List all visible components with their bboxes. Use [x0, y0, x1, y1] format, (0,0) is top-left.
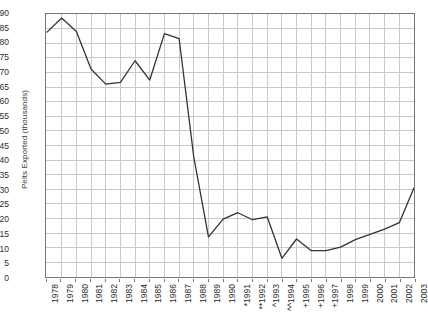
x-tick-label: 1985	[153, 282, 163, 322]
plot-area	[45, 13, 415, 278]
x-tick-label: ^1993	[271, 282, 281, 322]
y-tick-label: 85	[0, 23, 9, 33]
y-tick-label: 75	[0, 52, 9, 62]
y-tick-label: 0	[0, 273, 9, 283]
x-tick-label: 2000	[375, 282, 385, 322]
x-tick-label: 1980	[80, 282, 90, 322]
y-tick-label: 90	[0, 8, 9, 18]
x-tick-label: 1982	[109, 282, 119, 322]
x-tick-label: 1981	[94, 282, 104, 322]
x-tick-label: +1997	[330, 282, 340, 322]
y-tick-label: 25	[0, 199, 9, 209]
y-tick-label: 35	[0, 170, 9, 180]
x-tick-label: +1996	[316, 282, 326, 322]
series-line	[46, 14, 414, 277]
x-tick-label: 2002	[404, 282, 414, 322]
y-tick-label: 40	[0, 155, 9, 165]
y-tick-label: 60	[0, 96, 9, 106]
y-tick-label: 5	[0, 258, 9, 268]
x-tick-label: 1987	[183, 282, 193, 322]
x-tick-label: 2001	[389, 282, 399, 322]
line-chart: Pelts Exported (thousands) 0510152025303…	[0, 0, 428, 323]
x-tick-label: 2003	[419, 282, 428, 322]
x-tick-label: 1986	[168, 282, 178, 322]
y-tick-label: 20	[0, 214, 9, 224]
x-tick-label: 1978	[50, 282, 60, 322]
x-tick-label: 1999	[360, 282, 370, 322]
x-tick-label: 1998	[345, 282, 355, 322]
y-tick-label: 80	[0, 37, 9, 47]
y-tick-label: 10	[0, 244, 9, 254]
x-tick-label: ^^1994	[286, 282, 296, 322]
y-tick-label: 45	[0, 141, 9, 151]
y-tick-label: 55	[0, 111, 9, 121]
y-tick-label: 65	[0, 82, 9, 92]
x-tick-label: *1991	[242, 282, 252, 322]
x-tick-label: 1989	[212, 282, 222, 322]
x-tick-label: 1979	[65, 282, 75, 322]
x-tick-label: 1990	[227, 282, 237, 322]
x-tick-label: **1992	[257, 282, 267, 322]
y-axis-title: Pelts Exported (thousands)	[20, 50, 29, 230]
x-tick-label: 1983	[124, 282, 134, 322]
x-axis-ticks	[45, 279, 417, 283]
y-tick-label: 70	[0, 67, 9, 77]
y-tick-label: 30	[0, 185, 9, 195]
x-tick-label: +1995	[301, 282, 311, 322]
x-tick-label: 1988	[198, 282, 208, 322]
y-tick-label: 15	[0, 229, 9, 239]
y-tick-label: 50	[0, 126, 9, 136]
x-tick-label: 1984	[139, 282, 149, 322]
